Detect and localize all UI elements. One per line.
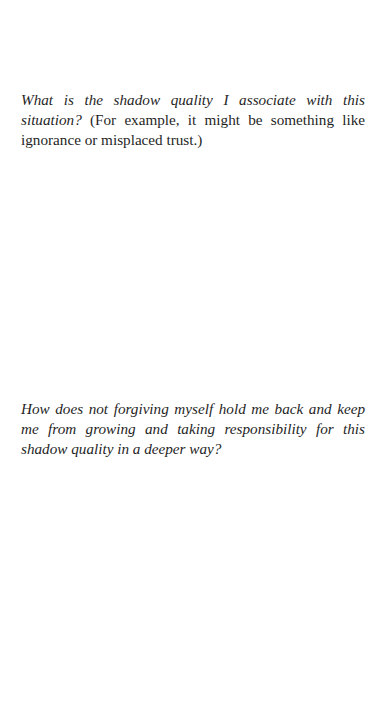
reflection-prompt-shadow-quality: What is the shadow quality I associate w… (21, 90, 365, 150)
prompt-question: How does not forgiving myself hold me ba… (21, 400, 365, 457)
document-page: What is the shadow quality I associate w… (0, 0, 387, 726)
reflection-prompt-self-forgiveness: How does not forgiving myself hold me ba… (21, 399, 365, 459)
